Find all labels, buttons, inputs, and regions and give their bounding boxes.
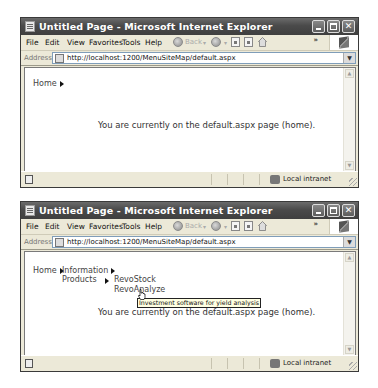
refresh-icon[interactable] [244, 221, 253, 231]
windows-logo [329, 35, 358, 50]
address-label: Address [24, 235, 52, 249]
browser-window-1: Untitled Page - Microsoft Internet Explo… [20, 17, 359, 188]
body-text: You are currently on the default.aspx pa… [98, 307, 315, 317]
address-bar: Address http://localhost:1200/MenuSiteMa… [21, 51, 358, 66]
back-icon[interactable] [173, 221, 183, 231]
address-url[interactable]: http://localhost:1200/MenuSiteMap/defaul… [67, 237, 236, 247]
scroll-down-icon[interactable]: ▼ [345, 161, 354, 170]
page-content: Home You are currently on the default.as… [24, 67, 356, 172]
menu-view[interactable]: View [67, 35, 85, 50]
windows-logo [329, 219, 358, 234]
home-icon[interactable] [258, 221, 267, 231]
stop-icon[interactable] [231, 37, 240, 47]
status-bar: Local intranet [21, 171, 358, 187]
page-status-icon [25, 175, 33, 184]
page-icon [25, 21, 35, 32]
scroll-up-icon[interactable]: ▲ [345, 69, 354, 78]
scroll-up-icon[interactable]: ▲ [345, 253, 354, 262]
menu-favorites[interactable]: Favorites [89, 35, 123, 50]
menu-tools[interactable]: Tools [122, 35, 140, 50]
submenu-arrow-icon [60, 81, 64, 87]
page-icon [55, 54, 64, 63]
menu-home-label: Home [33, 79, 57, 88]
page-icon [55, 238, 64, 247]
menu-bar: File Edit View Favorites Tools Help Back… [21, 35, 358, 51]
back-dropdown-icon[interactable]: ▾ [203, 221, 206, 232]
submenu-arrow-icon [111, 268, 115, 274]
title-bar[interactable]: Untitled Page - Microsoft Internet Explo… [21, 18, 358, 35]
intranet-zone-icon [270, 359, 280, 368]
forward-dropdown-icon[interactable]: ▾ [224, 221, 227, 232]
stop-icon[interactable] [231, 221, 240, 231]
forward-icon[interactable] [211, 37, 221, 47]
refresh-icon[interactable] [244, 37, 253, 47]
maximize-button[interactable] [327, 204, 340, 217]
menu-help[interactable]: Help [145, 219, 162, 234]
address-dropdown-icon[interactable]: ▼ [343, 53, 355, 63]
scroll-down-icon[interactable]: ▼ [345, 345, 354, 354]
back-label[interactable]: Back [185, 221, 202, 232]
menu-edit[interactable]: Edit [45, 219, 60, 234]
hand-cursor-icon [138, 289, 146, 300]
home-icon[interactable] [258, 37, 267, 47]
minimize-button[interactable] [312, 20, 325, 33]
close-button[interactable] [342, 20, 355, 33]
toolbar-chevron[interactable]: » [313, 35, 318, 46]
toolbar-chevron[interactable]: » [313, 219, 318, 230]
back-label[interactable]: Back [185, 37, 202, 48]
zone-label: Local intranet [283, 172, 331, 187]
minimize-button[interactable] [312, 204, 325, 217]
menu-root-home[interactable]: Home [33, 266, 64, 275]
page-content: Home Information Products RevoStock Revo… [24, 251, 356, 356]
vertical-scrollbar[interactable]: ▲ ▼ [343, 68, 355, 171]
resize-grip[interactable] [349, 178, 357, 186]
menu-help[interactable]: Help [145, 35, 162, 50]
vertical-scrollbar[interactable]: ▲ ▼ [343, 252, 355, 355]
menu-home-label: Home [33, 266, 57, 275]
menu-information-label: Information [62, 266, 108, 275]
zone-label: Local intranet [283, 356, 331, 371]
menu-file[interactable]: File [26, 219, 39, 234]
menu-tools[interactable]: Tools [122, 219, 140, 234]
menu-favorites[interactable]: Favorites [89, 219, 123, 234]
address-bar: Address http://localhost:1200/MenuSiteMa… [21, 235, 358, 250]
browser-window-2: Untitled Page - Microsoft Internet Explo… [20, 201, 359, 372]
close-button[interactable] [342, 204, 355, 217]
back-icon[interactable] [173, 37, 183, 47]
body-text: You are currently on the default.aspx pa… [98, 120, 315, 130]
resize-grip[interactable] [349, 362, 357, 370]
maximize-button[interactable] [327, 20, 340, 33]
forward-dropdown-icon[interactable]: ▾ [224, 37, 227, 48]
menu-file[interactable]: File [26, 35, 39, 50]
address-input[interactable]: http://localhost:1200/MenuSiteMap/defaul… [52, 236, 356, 248]
forward-icon[interactable] [211, 221, 221, 231]
menu-item-revostock[interactable]: RevoStock [114, 275, 156, 284]
tooltip: Investment software for yield analysis [137, 298, 261, 308]
address-url[interactable]: http://localhost:1200/MenuSiteMap/defaul… [67, 53, 236, 63]
page-status-icon [25, 359, 33, 368]
window-title: Untitled Page - Microsoft Internet Explo… [39, 18, 273, 35]
status-bar: Local intranet [21, 355, 358, 371]
menu-item-products[interactable]: Products [62, 275, 97, 284]
address-input[interactable]: http://localhost:1200/MenuSiteMap/defaul… [52, 52, 356, 64]
menu-view[interactable]: View [67, 219, 85, 234]
menu-edit[interactable]: Edit [45, 35, 60, 50]
address-dropdown-icon[interactable]: ▼ [343, 237, 355, 247]
page-icon [25, 205, 35, 216]
window-title: Untitled Page - Microsoft Internet Explo… [39, 202, 273, 219]
title-bar[interactable]: Untitled Page - Microsoft Internet Explo… [21, 202, 358, 219]
intranet-zone-icon [270, 175, 280, 184]
menu-bar: File Edit View Favorites Tools Help Back… [21, 219, 358, 235]
submenu-arrow-icon [105, 278, 109, 284]
back-dropdown-icon[interactable]: ▾ [203, 37, 206, 48]
menu-root-home[interactable]: Home [33, 79, 64, 88]
menu-item-information[interactable]: Information [62, 266, 115, 275]
address-label: Address [24, 51, 52, 65]
